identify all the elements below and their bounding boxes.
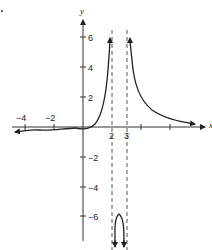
curve-middle-branch xyxy=(115,214,124,245)
y-tick-label: 2 xyxy=(88,93,93,103)
curve-right-top-arrow xyxy=(130,38,132,60)
y-tick-label: −2 xyxy=(88,153,98,163)
x-tick-label: −4 xyxy=(16,113,26,123)
y-tick-label: 4 xyxy=(88,63,93,73)
y-axis-label: y xyxy=(79,6,84,16)
x-tick-label: 3 xyxy=(124,131,129,141)
y-tick-label: −4 xyxy=(88,183,98,193)
y-tick-label: 6 xyxy=(88,33,93,43)
curve-right-branch xyxy=(132,60,195,124)
y-tick-label: −6 xyxy=(88,212,98,222)
curve-left-branch xyxy=(76,38,110,129)
x-tick-label: −2 xyxy=(45,113,55,123)
x-tick-label: 2 xyxy=(109,131,114,141)
x-axis-label: x xyxy=(208,120,212,130)
function-graph: x y −4 −2 2 3 6 4 2 −2 −4 −6 xyxy=(0,0,212,250)
curve-left-tail xyxy=(15,128,76,132)
stray-dot xyxy=(1,10,3,12)
